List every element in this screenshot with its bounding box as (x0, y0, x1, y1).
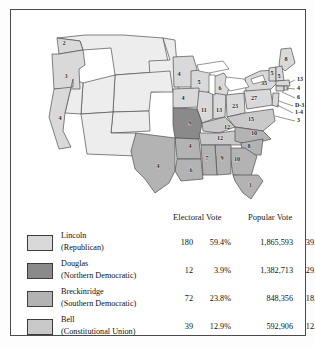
candidate-name: Bell (61, 314, 173, 326)
state-shape-oregon (52, 50, 85, 89)
candidate-name: Douglas (61, 258, 173, 270)
electoral-votes-percent: 23.8% (199, 294, 231, 303)
state-votes-mn: 4 (177, 70, 180, 77)
legend-row: Breckinridge(Southern Democratic)7223.8%… (23, 286, 315, 314)
electoral-votes-value: 72 (171, 294, 193, 303)
electoral-votes-percent: 3.9% (199, 266, 231, 275)
legend-candidate: Bell(Constitutional Union) (61, 314, 173, 337)
state-votes-il: 11 (201, 106, 207, 113)
legend-color-swatch (27, 319, 53, 335)
callout-votes-ct: 6 (297, 94, 300, 100)
candidate-name: Breckinridge (61, 286, 173, 298)
state-shape-nebraska-territory (113, 71, 173, 112)
callout-votes-md: 3 (297, 117, 300, 123)
electoral-votes-value: 180 (171, 238, 193, 247)
state-votes-ga: 10 (234, 155, 240, 162)
electoral-votes-percent: 59.4% (199, 238, 231, 247)
legend-candidate: Breckinridge(Southern Democratic) (61, 286, 173, 309)
state-votes-me: 8 (284, 55, 287, 62)
state-votes-mo: 9 (188, 119, 191, 126)
legend-color-swatch (27, 263, 53, 279)
state-votes-sc: 8 (247, 142, 250, 149)
state-shape-new-jersey (272, 93, 279, 107)
legend-header-row: Electoral Vote Popular Vote (23, 210, 315, 230)
state-votes-wa: 2 (62, 39, 65, 46)
legend-candidate: Douglas(Northern Democratic) (61, 258, 173, 281)
state-shape-texas (131, 133, 175, 193)
map-container: 23445641113232735855944679103810121215 1… (23, 21, 315, 206)
state-shape-massachusetts (276, 80, 290, 86)
legend-row: Lincoln(Republican)18059.4%1,865,59339.8… (23, 230, 315, 258)
state-votes-ky: 12 (224, 123, 230, 130)
candidate-party: (Southern Democratic) (61, 298, 173, 310)
popular-votes-value: 1,382,713 (237, 266, 293, 275)
state-votes-nh: 5 (277, 72, 280, 79)
candidate-party: (Republican) (61, 242, 173, 254)
state-votes-tx: 4 (156, 162, 159, 169)
state-votes-pa: 27 (251, 94, 257, 101)
results-legend-table: Electoral Vote Popular Vote Lincoln(Repu… (23, 210, 315, 344)
state-votes-va: 15 (248, 115, 254, 122)
state-votes-ny: 35 (261, 79, 267, 86)
state-shape-mississippi (201, 145, 217, 175)
state-shape-connecticut (276, 86, 284, 91)
state-votes-ar: 4 (188, 142, 191, 149)
legend-color-swatch (27, 291, 53, 307)
electoral-vote-header: Electoral Vote (173, 212, 222, 222)
state-votes-nc: 10 (251, 129, 257, 136)
popular-votes-percent: 29.5% (297, 266, 315, 275)
legend-candidate: Lincoln(Republican) (61, 230, 173, 253)
state-votes-fl: 3 (248, 181, 251, 188)
map-landmass (49, 35, 295, 199)
popular-votes-value: 1,865,593 (237, 238, 293, 247)
state-shape-utah-territory (81, 75, 115, 114)
lake-michigan (209, 75, 215, 95)
state-votes-in: 13 (216, 106, 222, 113)
legend-row: Douglas(Northern Democratic)123.9%1,382,… (23, 258, 315, 286)
state-votes-al: 9 (220, 154, 223, 161)
state-votes-ca: 4 (58, 114, 61, 121)
lake-superior (197, 61, 229, 73)
united-states-map-svg: 23445641113232735855944679103810121215 1… (23, 21, 315, 206)
candidate-party: (Constitutional Union) (61, 326, 173, 338)
state-votes-oh: 23 (232, 102, 238, 109)
state-votes-wi: 5 (197, 78, 200, 85)
popular-votes-percent: 18.1% (297, 294, 315, 303)
state-votes-ia: 4 (181, 94, 184, 101)
state-votes-ms: 7 (205, 154, 208, 161)
state-votes-vt: 5 (270, 69, 273, 76)
legend-color-swatch (27, 235, 53, 251)
figure-frame: 23445641113232735855944679103810121215 1… (10, 9, 306, 336)
state-callout-labels: 1346D-31-43 (295, 76, 304, 123)
candidate-name: Lincoln (61, 230, 173, 242)
state-votes-tn: 12 (217, 134, 223, 141)
state-votes-la: 6 (189, 166, 192, 173)
state-votes-or: 3 (64, 72, 67, 79)
election-map-figure: 23445641113232735855944679103810121215 1… (0, 0, 315, 347)
legend-rows-container: Lincoln(Republican)18059.4%1,865,59339.8… (23, 230, 315, 342)
popular-vote-header: Popular Vote (248, 212, 292, 222)
electoral-votes-value: 12 (171, 266, 193, 275)
state-shape-iowa (173, 88, 199, 108)
state-votes-mi: 6 (218, 84, 221, 91)
callout-votes-ri: 4 (297, 85, 300, 91)
callout-votes-de: D-3 (295, 102, 304, 108)
state-shape-kansas-territory (111, 111, 150, 133)
electoral-votes-value: 39 (171, 322, 193, 331)
callout-votes-nj: 1-4 (295, 109, 303, 115)
popular-votes-percent: 39.8% (297, 238, 315, 247)
popular-votes-value: 592,906 (237, 322, 293, 331)
popular-votes-percent: 12.6% (297, 322, 315, 331)
popular-votes-value: 848,356 (237, 294, 293, 303)
legend-row: Bell(Constitutional Union)3912.9%592,906… (23, 314, 315, 342)
candidate-party: (Northern Democratic) (61, 270, 173, 282)
electoral-votes-percent: 12.9% (199, 322, 231, 331)
callout-votes-ma: 13 (297, 76, 303, 82)
